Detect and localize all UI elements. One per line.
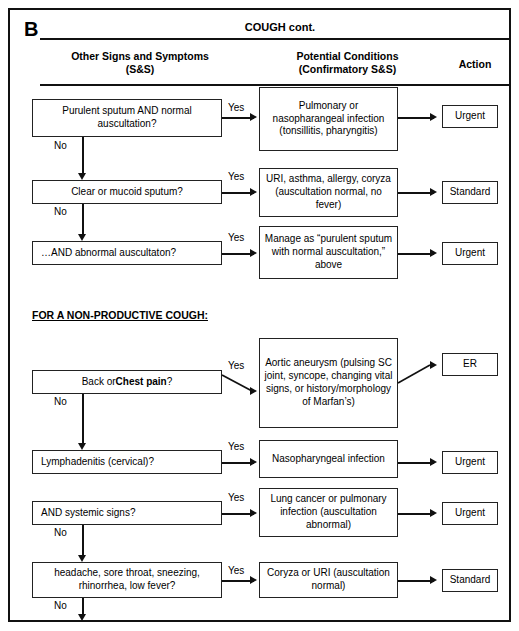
edge-line-action-row3 [398, 253, 434, 255]
arrow-no-row1 [78, 173, 86, 180]
arrow-action-row1 [430, 113, 437, 121]
column-header-signs: Other Signs and Symptoms (S&S) [40, 50, 240, 76]
column-header-conditions: Potential Conditions (Confirmatory S&S) [260, 50, 435, 76]
question-box-purulent-sputum[interactable]: Purulent sputum AND normal auscultation? [32, 99, 222, 137]
edge-label-no-row6: No [54, 528, 67, 538]
condition-box-coryza-or-uri: Coryza or URI (auscultation normal) [259, 562, 398, 598]
page-title: COUGH cont. [50, 21, 510, 33]
action-box-urgent-row3: Urgent [442, 242, 498, 265]
section-heading-non-productive-cough: FOR A NON-PRODUCTIVE COUGH: [32, 309, 208, 321]
arrow-no-row4 [78, 443, 86, 450]
condition-box-lung-cancer: Lung cancer or pulmonary infection (ausc… [259, 488, 398, 537]
edge-line-no-row6 [82, 525, 84, 558]
condition-box-uri-asthma-allergy: URI, asthma, allergy, coryza (auscultati… [259, 168, 398, 217]
edge-line-action-row4 [398, 365, 434, 385]
question-box-abnormal-auscultation[interactable]: …AND abnormal auscultaton? [32, 241, 222, 265]
edge-label-yes-row3: Yes [228, 233, 244, 243]
question-box-back-or-chest-pain[interactable]: Back or Chest pain? [32, 370, 222, 394]
edge-line-no-row1 [82, 137, 84, 176]
action-box-urgent-row6: Urgent [442, 502, 498, 525]
condition-box-aortic-aneurysm: Aortic aneurysm (pulsing SC joint, synco… [259, 338, 398, 428]
arrow-yes-row3 [250, 249, 257, 257]
arrow-yes-row7 [250, 576, 257, 584]
header-rule-bottom [40, 84, 510, 86]
question-box-systemic-signs[interactable]: AND systemic signs? [32, 501, 222, 525]
question-text-suffix: ? [167, 376, 173, 389]
arrow-no-row7 [78, 614, 86, 621]
arrow-yes-row1 [250, 113, 257, 121]
arrow-action-row6 [430, 509, 437, 517]
column-header-action: Action [442, 58, 508, 71]
edge-label-no-row7: No [54, 601, 67, 611]
edge-line-action-row2 [398, 192, 434, 194]
condition-box-pulmonary-infection: Pulmonary or nasopharangeal infection (t… [259, 87, 398, 151]
action-box-standard-row7: Standard [442, 569, 498, 592]
action-box-urgent-row5: Urgent [442, 451, 498, 474]
arrow-action-row5 [430, 458, 437, 466]
edge-label-yes-row6: Yes [228, 493, 244, 503]
condition-box-nasopharyngeal-infection: Nasopharyngeal infection [259, 440, 398, 478]
panel-frame: B COUGH cont. Other Signs and Symptoms (… [8, 8, 511, 622]
action-box-er-row4: ER [442, 353, 498, 376]
arrow-action-row3 [430, 249, 437, 257]
condition-box-manage-as-purulent: Manage as “purulent sputum with normal a… [259, 226, 398, 279]
question-box-clear-mucoid-sputum[interactable]: Clear or mucoid sputum? [32, 180, 222, 204]
edge-label-yes-row7: Yes [228, 566, 244, 576]
column-header-conditions-line2: (Confirmatory S&S) [260, 63, 435, 76]
edge-line-action-row1 [398, 117, 434, 119]
flowchart-page: B COUGH cont. Other Signs and Symptoms (… [0, 0, 519, 631]
action-box-urgent-row1: Urgent [442, 105, 498, 128]
edge-line-action-row5 [398, 462, 434, 464]
arrow-yes-row6 [250, 509, 257, 517]
question-text-bold: Chest pain [116, 376, 167, 389]
edge-label-yes-row5: Yes [228, 442, 244, 452]
arrow-no-row6 [78, 555, 86, 562]
action-box-standard-row2: Standard [442, 181, 498, 204]
question-box-lymphadenitis[interactable]: Lymphadenitis (cervical)? [32, 450, 222, 474]
edge-line-action-row7 [398, 580, 434, 582]
edge-label-yes-row1: Yes [228, 103, 244, 113]
column-header-signs-line1: Other Signs and Symptoms [40, 50, 240, 63]
question-box-headache-sore-throat[interactable]: headache, sore throat, sneezing, rhinorr… [32, 562, 222, 598]
edge-label-no-row1: No [54, 141, 67, 151]
arrow-yes-row2 [250, 188, 257, 196]
edge-line-no-row2 [82, 204, 84, 237]
arrow-no-row2 [78, 234, 86, 241]
column-header-conditions-line1: Potential Conditions [260, 50, 435, 63]
edge-label-yes-row4: Yes [228, 361, 244, 371]
arrow-action-row7 [430, 576, 437, 584]
edge-line-no-row4 [82, 394, 84, 446]
arrow-action-row4 [430, 361, 437, 369]
panel-letter: B [24, 19, 38, 39]
arrow-action-row2 [430, 188, 437, 196]
arrow-yes-row4 [250, 387, 257, 395]
question-text-prefix: Back or [82, 376, 116, 389]
edge-label-no-row2: No [54, 207, 67, 217]
header-rule-top [40, 38, 510, 40]
edge-line-action-row6 [398, 513, 434, 515]
column-header-signs-line2: (S&S) [40, 63, 240, 76]
arrow-yes-row5 [250, 458, 257, 466]
edge-label-yes-row2: Yes [228, 172, 244, 182]
edge-label-no-row4: No [54, 397, 67, 407]
